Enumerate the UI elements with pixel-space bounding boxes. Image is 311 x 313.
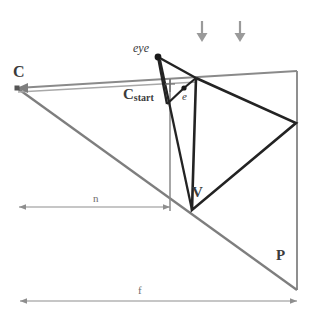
top-frame-line: [17, 71, 297, 88]
label-camera-start: Cstart: [123, 87, 154, 103]
label-e-point: e: [182, 91, 187, 102]
label-camera-c: C: [13, 64, 25, 80]
geometry-diagram: [0, 0, 311, 313]
label-camera-start-base: C: [123, 86, 134, 102]
near-dimension-line: [19, 204, 170, 210]
view-volume-triangle: [192, 78, 296, 210]
view-ray-c-to-p: [17, 88, 297, 290]
eye-to-cstart-line: [158, 57, 167, 104]
down-arrow-right: [235, 21, 246, 42]
label-vertex-v: V: [192, 185, 203, 200]
c-point-dot: [15, 86, 20, 91]
down-arrow-left: [197, 21, 208, 42]
eye-point-dot: [155, 54, 162, 61]
far-dimension-line: [20, 298, 297, 304]
label-far-distance: f: [138, 285, 142, 296]
label-point-p: P: [276, 248, 285, 263]
label-near-distance: n: [93, 193, 99, 204]
label-camera-start-subscript: start: [134, 92, 154, 103]
label-eye: eye: [133, 42, 149, 54]
